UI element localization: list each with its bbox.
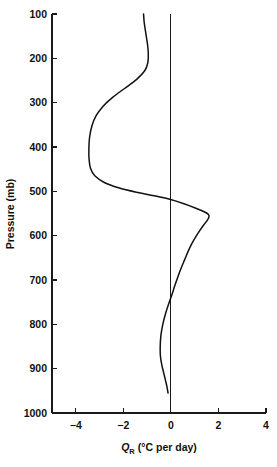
figure-container: 1002003004005006007008009001000 −4−2024 …	[0, 0, 277, 467]
y-axis-tick-label: 900	[29, 362, 47, 374]
x-axis-tick-label: 0	[168, 419, 174, 431]
y-axis-tick-label: 1000	[24, 407, 48, 419]
y-axis-title: Pressure (mb)	[4, 179, 16, 250]
y-axis-tick-label: 300	[29, 96, 47, 108]
y-axis-tick-label: 700	[29, 274, 47, 286]
y-axis-tick-label: 500	[29, 185, 47, 197]
y-axis-tick-label: 200	[29, 52, 47, 64]
y-axis-tick-label: 400	[29, 141, 47, 153]
x-axis-title-symbol: Q	[121, 441, 129, 453]
y-axis-tick-label: 600	[29, 229, 47, 241]
x-axis-tick-label: −4	[70, 419, 82, 431]
x-axis-tick-label: 2	[216, 419, 222, 431]
radiative-heating-chart: 1002003004005006007008009001000 −4−2024 …	[0, 0, 277, 467]
x-axis-tick-label: −2	[117, 419, 129, 431]
x-axis-title-subscript: R	[129, 447, 135, 456]
x-axis-tick-label: 4	[263, 419, 269, 431]
y-axis-tick-label: 800	[29, 318, 47, 330]
y-axis-tick-label: 100	[29, 8, 47, 20]
x-axis-title-units: (°C per day)	[138, 441, 197, 453]
